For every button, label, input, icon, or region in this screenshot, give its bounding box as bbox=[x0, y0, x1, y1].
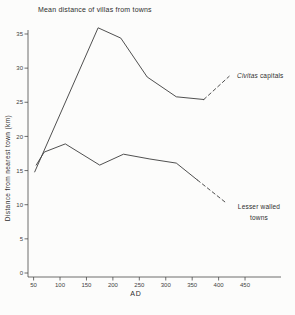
series-label-lesser-line1: Lesser walled bbox=[228, 201, 290, 212]
series-line-lesser-walled-towns-dashed bbox=[198, 180, 226, 202]
series-label-lesser-line2: towns bbox=[228, 212, 290, 223]
chart-canvas: 5010015020025030035040045005101520253035… bbox=[0, 0, 295, 315]
y-tick-label: 0 bbox=[20, 270, 24, 276]
x-tick-label: 450 bbox=[240, 282, 251, 288]
x-tick-label: 200 bbox=[108, 282, 119, 288]
plot-area: 5010015020025030035040045005101520253035 bbox=[0, 0, 295, 315]
x-tick-label: 300 bbox=[161, 282, 172, 288]
x-axis-label: AD bbox=[116, 290, 156, 297]
series-line-lesser-walled-towns bbox=[36, 144, 197, 180]
series-label-lesser-walled-towns: Lesser walled towns bbox=[228, 201, 290, 223]
x-tick-label: 100 bbox=[55, 282, 66, 288]
y-tick-label: 5 bbox=[20, 236, 24, 242]
x-tick-label: 150 bbox=[81, 282, 92, 288]
series-label-civitas-rest: capitals bbox=[258, 72, 284, 79]
y-tick-label: 35 bbox=[16, 31, 23, 37]
y-tick-label: 30 bbox=[16, 65, 23, 71]
x-tick-label: 400 bbox=[214, 282, 225, 288]
y-tick-label: 15 bbox=[16, 168, 23, 174]
y-axis-label: Distance from nearest town (km) bbox=[4, 48, 16, 288]
x-tick-label: 50 bbox=[30, 282, 37, 288]
series-label-civitas-capitals: Civitascapitals bbox=[237, 72, 284, 79]
y-tick-label: 20 bbox=[16, 134, 23, 140]
x-tick-label: 350 bbox=[187, 282, 198, 288]
y-tick-label: 25 bbox=[16, 99, 23, 105]
series-line-civitas-capitals bbox=[35, 28, 204, 172]
series-label-civitas-italic: Civitas bbox=[237, 72, 258, 79]
series-line-civitas-capitals-dashed bbox=[204, 76, 229, 99]
chart-title: Mean distance of villas from towns bbox=[38, 6, 152, 13]
y-tick-label: 10 bbox=[16, 202, 23, 208]
x-tick-label: 250 bbox=[134, 282, 145, 288]
